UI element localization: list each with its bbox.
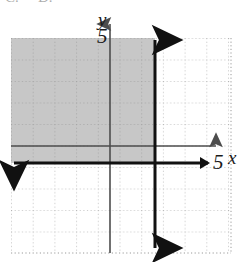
x-axis-label: x — [228, 148, 236, 167]
x-axis-tick-label-5: 5 — [213, 152, 224, 173]
y-axis-tick-label-5: 5 — [97, 26, 108, 47]
graph-figure: C. D. — [0, 0, 242, 262]
shaded-solution-region — [11, 38, 155, 163]
coordinate-plane-svg — [0, 0, 242, 262]
